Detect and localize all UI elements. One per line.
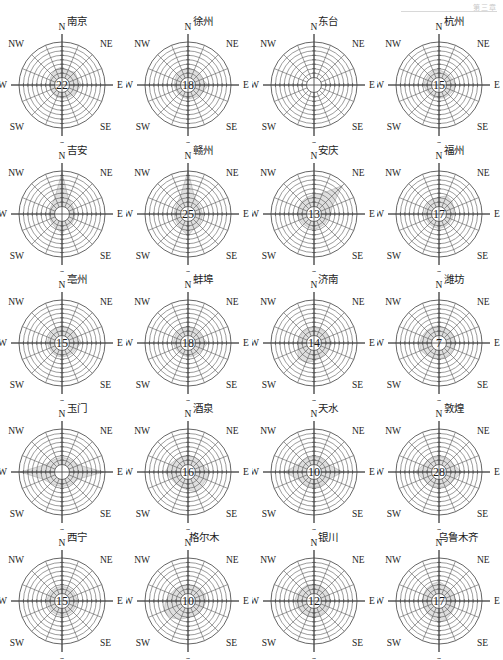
compass-label-ne: NE [226, 168, 239, 178]
compass-label-ne: NE [226, 39, 239, 49]
compass-label-e: E [117, 596, 123, 606]
compass-label-n: N [310, 151, 317, 161]
compass-label-sw: SW [135, 251, 149, 261]
compass-label-e: E [494, 596, 500, 606]
compass-label-sw: SW [261, 122, 275, 132]
wind-rose-cell: 15NNEESESSWWNW西宁 [0, 530, 126, 659]
compass-label-sw: SW [10, 638, 24, 648]
compass-label-w: W [0, 338, 7, 348]
compass-label-w: W [377, 338, 384, 348]
compass-label-e: E [494, 80, 500, 90]
compass-label-n: N [310, 538, 317, 548]
wind-rose-cell: 28NNEESESSWWNW敦煌 [377, 401, 503, 530]
compass-label-s: S [59, 657, 64, 659]
wind-rose-plot: 18NNEESESSWWNW [126, 272, 252, 401]
compass-label-n: N [436, 409, 443, 419]
wind-rose-cell: 15NNEESESSWWNW杭州 [377, 14, 503, 143]
station-title: 东台 [318, 15, 338, 27]
compass-label-n: N [310, 22, 317, 32]
wind-rose-cell: NNEESESSWWNW吉安 [0, 143, 126, 272]
compass-label-se: SE [226, 380, 237, 390]
compass-label-nw: NW [8, 168, 24, 178]
compass-label-nw: NW [134, 426, 150, 436]
compass-label-n: N [184, 151, 191, 161]
station-title: 银川 [318, 531, 338, 543]
wind-rose-plot: 10NNEESESSWWNW [252, 401, 378, 530]
station-title: 亳州 [67, 273, 87, 285]
wind-rose-cell: NNEESESSWWNW东台 [252, 14, 378, 143]
wind-rose-plot: 28NNEESESSWWNW [377, 401, 503, 530]
compass-label-ne: NE [352, 168, 365, 178]
calm-value: 28 [433, 465, 445, 479]
calm-value: 12 [308, 594, 320, 608]
compass-label-sw: SW [261, 380, 275, 390]
compass-label-e: E [243, 596, 249, 606]
page-header: 第三章 [473, 2, 497, 12]
compass-label-nw: NW [260, 555, 276, 565]
compass-label-w: W [252, 80, 259, 90]
wind-rose-plot: 12NNEESESSWWNW [252, 530, 378, 659]
compass-label-nw: NW [134, 39, 150, 49]
wind-rose-plot: 15NNEESESSWWNW [0, 530, 126, 659]
compass-label-ne: NE [100, 39, 113, 49]
page-header-rule [401, 11, 497, 12]
station-title: 安庆 [318, 144, 338, 156]
compass-label-w: W [126, 467, 133, 477]
compass-label-nw: NW [385, 555, 401, 565]
wind-rose-plot: 14NNEESESSWWNW [252, 272, 378, 401]
compass-label-w: W [252, 338, 259, 348]
wind-rose-cell: 12NNEESESSWWNW银川 [252, 530, 378, 659]
wind-rose-plot: 10NNEESESSWWNW [126, 530, 252, 659]
compass-label-nw: NW [385, 168, 401, 178]
compass-label-ne: NE [100, 426, 113, 436]
compass-label-se: SE [100, 251, 111, 261]
compass-label-e: E [243, 209, 249, 219]
compass-label-n: N [310, 409, 317, 419]
compass-label-w: W [0, 209, 7, 219]
compass-label-se: SE [477, 638, 488, 648]
compass-label-s: S [185, 657, 190, 659]
compass-label-se: SE [477, 251, 488, 261]
compass-label-e: E [369, 209, 375, 219]
compass-label-ne: NE [352, 39, 365, 49]
compass-label-nw: NW [260, 426, 276, 436]
wind-rose-grid: 22NNEESESSWWNW南京18NNEESESSWWNW徐州NNEESESS… [0, 14, 503, 659]
calm-value: 10 [182, 594, 194, 608]
wind-rose-spokes [11, 163, 113, 265]
compass-label-e: E [243, 338, 249, 348]
wind-rose-cell: 15NNEESESSWWNW亳州 [0, 272, 126, 401]
compass-label-sw: SW [135, 509, 149, 519]
wind-rose-plot: 13NNEESESSWWNW [252, 143, 378, 272]
wind-rose-plot: NNEESESSWWNW [0, 401, 126, 530]
compass-label-s: S [311, 657, 316, 659]
station-title: 吉安 [67, 144, 87, 156]
calm-value: 22 [56, 78, 68, 92]
calm-value: 7 [436, 336, 442, 350]
compass-label-ne: NE [226, 426, 239, 436]
compass-label-sw: SW [387, 638, 401, 648]
compass-label-se: SE [100, 380, 111, 390]
compass-label-se: SE [100, 638, 111, 648]
calm-value: 13 [308, 207, 320, 221]
compass-label-sw: SW [10, 380, 24, 390]
wind-rose-spokes [263, 34, 365, 136]
compass-label-n: N [184, 22, 191, 32]
compass-label-ne: NE [226, 297, 239, 307]
compass-label-se: SE [352, 122, 363, 132]
compass-label-nw: NW [8, 297, 24, 307]
compass-label-w: W [0, 596, 7, 606]
compass-label-n: N [436, 22, 443, 32]
compass-label-ne: NE [477, 297, 490, 307]
compass-label-se: SE [352, 251, 363, 261]
compass-label-nw: NW [8, 555, 24, 565]
compass-label-nw: NW [134, 168, 150, 178]
compass-label-s: S [437, 657, 442, 659]
station-title: 杭州 [444, 15, 464, 27]
compass-label-se: SE [226, 251, 237, 261]
calm-value: 18 [182, 78, 194, 92]
compass-label-se: SE [477, 509, 488, 519]
calm-value: 18 [182, 336, 194, 350]
compass-label-ne: NE [477, 555, 490, 565]
compass-label-ne: NE [477, 39, 490, 49]
calm-value: 14 [308, 336, 320, 350]
